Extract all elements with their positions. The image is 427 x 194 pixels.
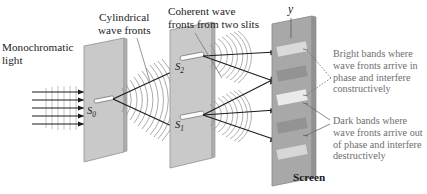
label-y-axis: y — [288, 3, 293, 16]
label-slit-s2: S2 — [175, 61, 184, 75]
coherent-wavefronts-upper — [210, 31, 251, 83]
label-slit-s0: S0 — [87, 105, 96, 119]
figure-canvas: Monochromatic light Cylindrical wave fro… — [0, 0, 427, 194]
incoming-ray-arrowheads — [78, 89, 84, 126]
slit-s0-subscript: 0 — [92, 110, 96, 119]
label-dark-bands-annotation: Dark bands where wave fronts arrive out … — [333, 115, 423, 162]
label-screen: Screen — [293, 171, 325, 184]
label-monochromatic-light: Monochromatic light — [2, 41, 73, 67]
slit-s2-subscript: 2 — [180, 66, 184, 75]
first-barrier — [84, 38, 127, 162]
coherent-wavefronts-lower — [210, 90, 251, 142]
label-slit-s1: S1 — [175, 119, 184, 133]
label-bright-bands-annotation: Bright bands where wave fronts arrive in… — [333, 48, 418, 95]
label-coherent-wave-fronts: Coherent wave fronts from two slits — [168, 5, 259, 31]
screen — [272, 16, 316, 186]
cylindrical-wavefronts — [122, 59, 178, 141]
label-cylindrical-wave-fronts: Cylindrical wave fronts — [98, 11, 151, 37]
second-barrier — [170, 22, 215, 168]
slit-s1-subscript: 1 — [180, 124, 184, 133]
